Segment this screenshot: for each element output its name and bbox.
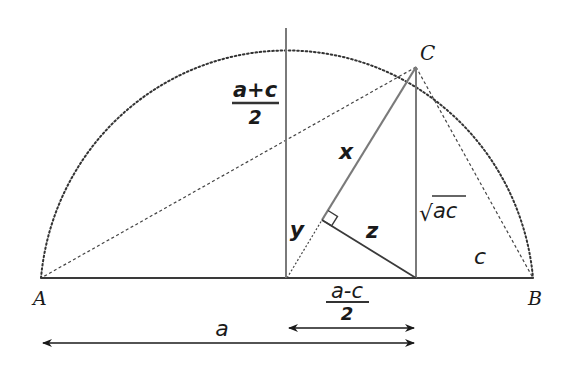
label-point-a: A — [31, 287, 47, 309]
label-segment-y: y — [290, 217, 306, 242]
label-segment-z: z — [365, 219, 379, 243]
label-segment-c: c — [474, 244, 486, 269]
semicircle-diagram: A B C a+c 2 x y z √ ac c a-c 2 a — [0, 0, 569, 368]
label-am-denominator: 2 — [248, 106, 261, 128]
label-point-c: C — [420, 41, 435, 65]
label-segment-a: a — [215, 316, 228, 341]
label-am-numerator: a+c — [233, 78, 278, 102]
label-diff-numerator: a-c — [331, 279, 363, 303]
label-gm-radicand: ac — [433, 199, 458, 223]
radius-oc — [322, 67, 416, 220]
label-segment-x: x — [338, 139, 354, 164]
label-gm-radical: √ — [419, 201, 434, 226]
chord-ca — [41, 67, 416, 278]
label-diff-denominator: 2 — [341, 303, 354, 324]
label-point-b: B — [527, 287, 542, 309]
